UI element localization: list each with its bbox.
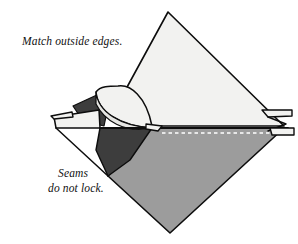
annotation-seams-line2: do not lock. — [48, 182, 104, 194]
annotation-seams-line1: Seams — [58, 167, 89, 179]
origami-figure-svg: Match outside edges. Seams do not lock. — [0, 0, 298, 244]
annotation-match-outside-edges: Match outside edges. — [21, 35, 122, 48]
origami-diagram: Match outside edges. Seams do not lock. — [0, 0, 298, 244]
right-tab-upper-arm — [262, 110, 292, 117]
right-tab-lower-arm — [270, 128, 294, 135]
left-tab — [51, 112, 73, 119]
left-flap — [54, 110, 100, 128]
flap-tip-nub — [146, 124, 162, 131]
